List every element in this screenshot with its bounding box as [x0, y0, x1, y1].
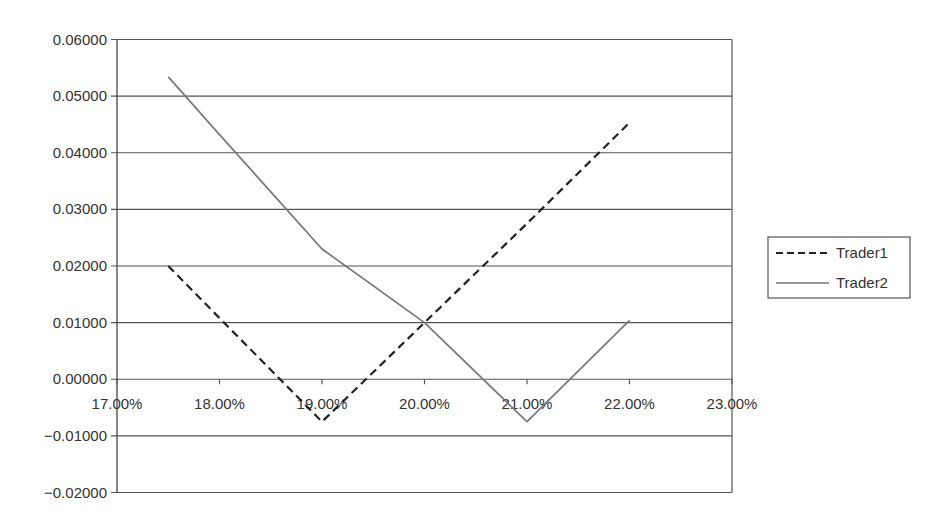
y-tick-label: 0.00000 [53, 370, 107, 387]
y-axis: 0.060000.050000.040000.030000.020000.010… [44, 31, 107, 501]
x-tick-label: 22.00% [604, 395, 655, 412]
series-line-trader2 [168, 77, 629, 422]
line-chart: 0.060000.050000.040000.030000.020000.010… [0, 0, 938, 527]
x-axis: 17.00%18.00%19.00%20.00%21.00%22.00%23.0… [92, 379, 758, 412]
y-tick-label: 0.06000 [53, 31, 107, 48]
legend-label-trader1: Trader1 [836, 244, 888, 261]
y-tick-label: 0.05000 [53, 87, 107, 104]
y-tick-label: −0.01000 [44, 427, 107, 444]
x-tick-label: 20.00% [399, 395, 450, 412]
y-tick-label: 0.01000 [53, 314, 107, 331]
gridlines [111, 40, 732, 493]
x-tick-label: 17.00% [92, 395, 143, 412]
y-tick-label: 0.04000 [53, 144, 107, 161]
series-line-trader1 [168, 123, 629, 422]
data-series [168, 77, 629, 422]
legend: Trader1 Trader2 [768, 237, 910, 298]
x-tick-label: 19.00% [297, 395, 348, 412]
y-tick-label: 0.03000 [53, 200, 107, 217]
x-tick-label: 23.00% [707, 395, 758, 412]
y-tick-label: 0.02000 [53, 257, 107, 274]
legend-label-trader2: Trader2 [836, 274, 888, 291]
x-tick-label: 18.00% [194, 395, 245, 412]
y-tick-label: −0.02000 [44, 484, 107, 501]
